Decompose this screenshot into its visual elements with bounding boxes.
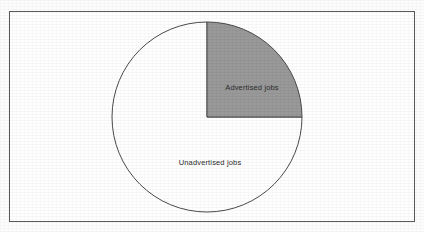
pie-slice-label-unadvertised-jobs: Unadvertised jobs — [179, 159, 242, 167]
pie-slice-advertised-jobs[interactable] — [207, 22, 302, 117]
pie-chart-figure: Advertised jobs Unadvertised jobs — [0, 0, 424, 232]
pie-chart-graphic — [0, 0, 424, 232]
pie-slice-label-advertised-jobs: Advertised jobs — [225, 84, 279, 92]
